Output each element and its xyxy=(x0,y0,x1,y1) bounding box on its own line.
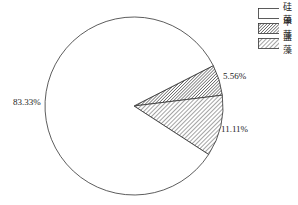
label-guizao: 83.33% xyxy=(13,97,41,107)
legend-swatch-sparse-hatch xyxy=(258,38,279,49)
legend-swatch-dense-hatch xyxy=(258,23,279,34)
legend: 硅藻 甲藻 蓝藻 xyxy=(258,6,298,51)
legend-item-lanzao: 蓝藻 xyxy=(258,36,298,50)
label-lanzao: 11.11% xyxy=(221,124,248,134)
pie-chart xyxy=(0,0,298,205)
legend-label: 蓝藻 xyxy=(283,30,298,56)
label-jiazao: 5.56% xyxy=(223,71,246,81)
legend-swatch-white xyxy=(258,8,279,19)
